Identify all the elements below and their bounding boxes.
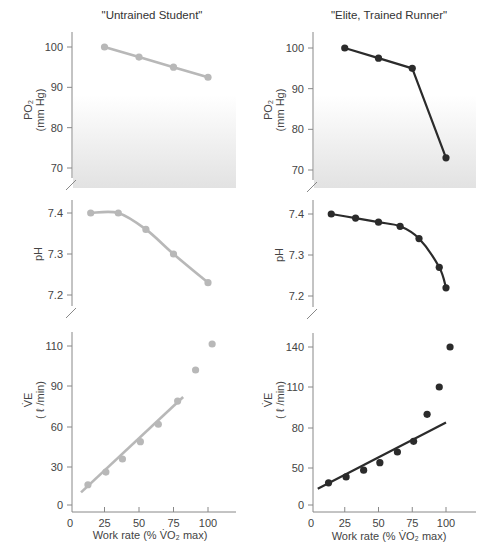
po2-label: PO₂ [262, 100, 274, 120]
y-tick-label: 7.2 [289, 290, 304, 302]
y-tick-label: 80 [292, 123, 304, 135]
series-line [331, 214, 446, 288]
right-po2-ylabel: PO₂ (mm Hg) [262, 89, 286, 132]
y-tick-label: 30 [51, 461, 63, 473]
x-tick-label: 25 [98, 517, 110, 529]
x-tick-label: 75 [167, 517, 179, 529]
x-tick-label: 25 [339, 517, 351, 529]
data-point [119, 455, 126, 462]
x-tick-label: 50 [372, 517, 384, 529]
data-point [352, 215, 359, 222]
x-tick-label: 100 [437, 517, 455, 529]
series-line [105, 47, 209, 77]
right-xlabel: Work rate (% V̇O₂ max) [332, 530, 447, 542]
data-point [415, 235, 422, 242]
data-point [375, 55, 382, 62]
y-tick-label: 7.2 [48, 289, 63, 301]
data-point [436, 383, 443, 390]
data-point [409, 65, 416, 72]
data-point [192, 366, 199, 373]
series-line [91, 212, 208, 283]
y-tick-label: 7.3 [289, 249, 304, 261]
right-middle-plot: 7.27.37.4 [289, 200, 450, 319]
po2-unit-label: (mm Hg) [274, 89, 286, 132]
data-point [87, 209, 94, 216]
data-point [155, 421, 162, 428]
y-tick-label: 110 [45, 340, 63, 352]
figure-canvas: "Untrained Student" "Elite, Trained Runn… [0, 0, 489, 552]
data-point [174, 397, 181, 404]
data-point [341, 44, 348, 51]
left-panel-title: "Untrained Student" [102, 9, 203, 21]
y-tick-label: 50 [292, 462, 304, 474]
right-ph-ylabel: pH [273, 248, 285, 262]
data-point [375, 219, 382, 226]
right-bottom-plot: 050801101400255075100 [286, 333, 476, 529]
fit-line [81, 397, 183, 492]
data-point [446, 343, 453, 350]
x-tick-label: 100 [199, 517, 217, 529]
left-middle-plot: 7.27.37.4 [48, 200, 212, 318]
y-tick-label: 100 [45, 41, 63, 53]
data-point [204, 74, 211, 81]
left-bottom-plot: 03060901100255075100 [45, 332, 236, 529]
data-point [410, 438, 417, 445]
data-point [142, 226, 149, 233]
y-tick-label: 90 [292, 83, 304, 95]
y-tick-label: 80 [292, 422, 304, 434]
data-point [442, 284, 449, 291]
data-point [170, 250, 177, 257]
y-tick-label: 80 [51, 122, 63, 134]
y-tick-label: 70 [292, 164, 304, 176]
data-point [115, 209, 122, 216]
axis-break-mark [66, 308, 76, 318]
y-tick-label: 60 [51, 421, 63, 433]
ve-unit-label: ( ℓ /min) [34, 381, 46, 419]
data-point [343, 473, 350, 480]
po2-label: PO₂ [22, 100, 34, 120]
data-point [376, 459, 383, 466]
y-tick-label: 140 [286, 341, 304, 353]
data-point [360, 467, 367, 474]
x-tick-label: 0 [308, 517, 314, 529]
ph-label: pH [273, 248, 285, 262]
ve-unit-label: ( ℓ /min) [274, 381, 286, 419]
x-tick-label: 75 [406, 517, 418, 529]
data-point [170, 64, 177, 71]
data-point [442, 154, 449, 161]
ve-label: V̇E [22, 393, 34, 408]
y-tick-label: 90 [51, 81, 63, 93]
right-po2-shade [314, 95, 476, 188]
y-tick-label: 100 [286, 42, 304, 54]
data-point [328, 210, 335, 217]
ve-label: V̇E [262, 393, 274, 408]
x-tick-label: 50 [133, 517, 145, 529]
y-tick-label: 0 [298, 499, 304, 511]
data-point [397, 223, 404, 230]
left-po2-ylabel: PO₂ (mm Hg) [22, 89, 46, 132]
axis-break-mark [307, 309, 317, 319]
right-panel-title: "Elite, Trained Runner" [331, 9, 447, 21]
y-tick-label: 70 [51, 162, 63, 174]
data-point [135, 53, 142, 60]
left-po2-shade [73, 95, 236, 188]
left-xlabel: Work rate (% V̇O₂ max) [93, 529, 208, 541]
x-tick-label: 0 [67, 517, 73, 529]
data-point [84, 481, 91, 488]
data-point [137, 438, 144, 445]
data-point [325, 479, 332, 486]
po2-unit-label: (mm Hg) [34, 89, 46, 132]
data-point [204, 279, 211, 286]
ph-label: pH [32, 247, 44, 261]
data-point [101, 43, 108, 50]
right-ve-ylabel: V̇E ( ℓ /min) [262, 381, 286, 419]
data-point [102, 468, 109, 475]
left-ph-ylabel: pH [32, 247, 44, 261]
data-point [436, 264, 443, 271]
fit-line [318, 423, 446, 489]
y-tick-label: 7.4 [48, 207, 63, 219]
data-point [209, 340, 216, 347]
data-point [424, 411, 431, 418]
y-tick-label: 90 [51, 380, 63, 392]
left-ve-ylabel: V̇E ( ℓ /min) [22, 381, 46, 419]
